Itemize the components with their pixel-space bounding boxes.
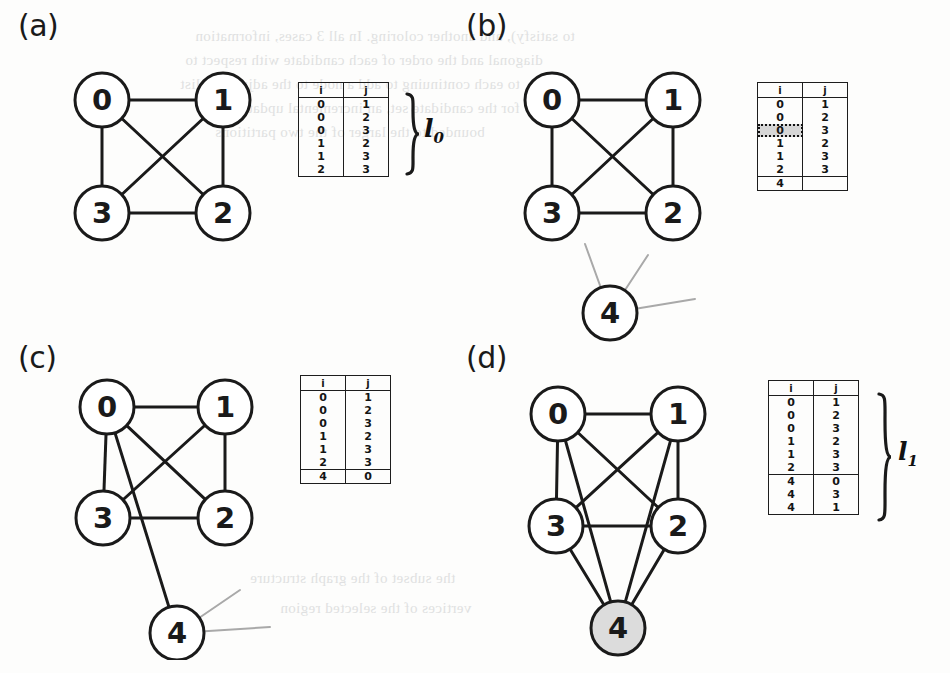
cell-j: 2 <box>344 111 389 124</box>
graph-edge-4-2 <box>631 548 665 605</box>
graph-node-1[interactable]: 1 <box>198 380 252 434</box>
graph-node-3[interactable]: 3 <box>76 491 130 545</box>
graph-edge-0-3 <box>556 440 557 500</box>
panel-label-a: (a) <box>18 8 58 43</box>
table-row: 12 <box>299 137 389 150</box>
table-row-appended: 40 <box>769 475 859 489</box>
cell-j: 1 <box>344 98 389 112</box>
graph-node-1[interactable]: 1 <box>196 73 250 127</box>
node-label: 1 <box>215 390 235 424</box>
graph-node-4[interactable]: 4 <box>150 606 204 660</box>
graph-d: 01324 <box>508 378 738 663</box>
brace-label-symbol: l <box>898 437 908 466</box>
table-row: 13 <box>769 448 859 461</box>
graph-node-2[interactable]: 2 <box>646 186 700 240</box>
cell-i: 0 <box>758 98 803 112</box>
cell-i: 0 <box>769 422 814 435</box>
cell-i: 0 <box>769 396 814 410</box>
node-label: 0 <box>97 390 117 424</box>
table-row: 02 <box>769 409 859 422</box>
cell-i: 2 <box>301 456 346 470</box>
cell-j: 3 <box>344 124 389 137</box>
graph-node-4[interactable]: 4 <box>591 601 645 655</box>
cell-i: 1 <box>299 137 344 150</box>
cell-i: 0 <box>299 111 344 124</box>
table-row: 13 <box>299 150 389 163</box>
cell-i: 4 <box>769 501 814 515</box>
cell-i: 0 <box>758 124 803 137</box>
table-row: 01 <box>301 391 391 405</box>
table-row-appended: 41 <box>769 501 859 515</box>
curly-brace-d <box>876 392 892 522</box>
table-row: 23 <box>301 456 391 470</box>
cell-j: 2 <box>803 137 848 150</box>
graph-node-4[interactable]: 4 <box>583 286 637 340</box>
graph-node-2[interactable]: 2 <box>196 186 250 240</box>
table-row-appended: 4 <box>758 177 848 191</box>
node-label: 2 <box>213 196 233 230</box>
cell-i: 1 <box>301 430 346 443</box>
cell-j: 0 <box>814 475 859 489</box>
node-label: 2 <box>663 196 683 230</box>
table-row: 02 <box>299 111 389 124</box>
column-header-i: i <box>758 83 803 98</box>
cell-i: 1 <box>301 443 346 456</box>
node-label: 3 <box>93 501 113 535</box>
node-label: 1 <box>668 397 688 431</box>
cell-j: 3 <box>814 488 859 501</box>
cell-j: 2 <box>814 435 859 448</box>
cell-i: 1 <box>769 435 814 448</box>
cell-i: 1 <box>758 150 803 163</box>
node-label: 0 <box>92 83 112 117</box>
table-row: 02 <box>301 404 391 417</box>
node-label: 0 <box>548 397 568 431</box>
cell-j: 3 <box>814 461 859 475</box>
graph-node-0[interactable]: 0 <box>531 387 585 441</box>
cell-j: 2 <box>814 409 859 422</box>
table-row: 01 <box>769 396 859 410</box>
graph-node-3[interactable]: 3 <box>525 186 579 240</box>
graph-node-2[interactable]: 2 <box>651 499 705 553</box>
brace-label-d: l1 <box>898 437 918 470</box>
cell-i: 4 <box>769 475 814 489</box>
cell-i: 2 <box>758 163 803 177</box>
cell-i: 1 <box>299 150 344 163</box>
cell-i: 4 <box>758 177 803 191</box>
cell-j: 2 <box>803 111 848 124</box>
cell-j: 3 <box>344 150 389 163</box>
table-row-appended: 40 <box>301 470 391 484</box>
cell-i: 0 <box>769 409 814 422</box>
cell-j: 3 <box>344 163 389 177</box>
graph-node-0[interactable]: 0 <box>75 73 129 127</box>
panel-label-c: (c) <box>18 340 56 375</box>
table-row-appended: 43 <box>769 488 859 501</box>
graph-c: 01324 <box>55 375 285 660</box>
graph-node-3[interactable]: 3 <box>529 499 583 553</box>
cell-j: 3 <box>803 124 848 137</box>
cell-i: 2 <box>299 163 344 177</box>
node-label: 4 <box>167 616 187 650</box>
graph-node-1[interactable]: 1 <box>646 73 700 127</box>
column-header-j: j <box>344 83 389 98</box>
table-row: 23 <box>769 461 859 475</box>
column-header-i: i <box>769 381 814 396</box>
cell-i: 4 <box>301 470 346 484</box>
graph-b: 01324 <box>505 58 735 343</box>
node-label: 4 <box>600 296 620 330</box>
column-header-i: i <box>301 376 346 391</box>
cell-j: 1 <box>803 98 848 112</box>
graph-node-3[interactable]: 3 <box>75 186 129 240</box>
column-header-i: i <box>299 83 344 98</box>
graph-node-2[interactable]: 2 <box>198 491 252 545</box>
table-row: 12 <box>301 430 391 443</box>
cell-j: 3 <box>346 417 391 430</box>
table-row: 03 <box>299 124 389 137</box>
graph-node-0[interactable]: 0 <box>525 73 579 127</box>
graph-node-1[interactable]: 1 <box>651 387 705 441</box>
cell-i: 0 <box>299 124 344 137</box>
cell-j: 1 <box>814 396 859 410</box>
graph-node-0[interactable]: 0 <box>80 380 134 434</box>
cell-j: 3 <box>346 456 391 470</box>
graph-a: 0132 <box>55 58 270 243</box>
column-header-j: j <box>814 381 859 396</box>
